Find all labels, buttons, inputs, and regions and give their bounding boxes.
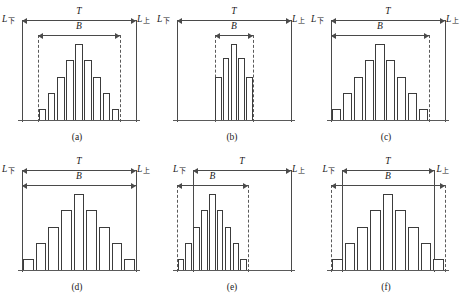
spread-dimension-arrow (215, 35, 254, 36)
spread-right-line (253, 35, 254, 122)
histogram-bar (225, 227, 232, 270)
upper-limit-label-subscript: 上 (297, 167, 305, 175)
histogram-bar (332, 109, 341, 120)
histogram-bar (61, 210, 72, 270)
histogram-bar (433, 259, 444, 270)
tolerance-dimension-arrow (331, 20, 445, 21)
histogram-bar (215, 77, 222, 120)
tolerance-upper-limit-line (445, 20, 446, 122)
histogram-bar (48, 93, 56, 120)
histogram-bar (74, 194, 85, 270)
histogram-bar (217, 210, 224, 270)
lower-limit-label: L下 (173, 165, 186, 175)
upper-limit-label: L上 (137, 165, 150, 175)
histogram-bar (332, 259, 343, 270)
lower-limit-label-subscript: 下 (178, 167, 186, 175)
panel-f: TBL下L上(f) (309, 150, 463, 301)
histogram-baseline (173, 270, 295, 271)
lower-limit-label-subscript: 下 (162, 17, 170, 25)
panel-caption: (b) (155, 132, 309, 142)
spread-right-line (248, 185, 249, 272)
tolerance-dimension-label: T (239, 157, 244, 167)
histogram-bar (357, 227, 368, 270)
histogram-baseline (18, 270, 140, 271)
histogram-bar (193, 227, 200, 270)
histogram-bar (421, 243, 432, 270)
tolerance-dimension-label: T (385, 7, 390, 17)
tolerance-dimension-label: T (231, 7, 236, 17)
panel-caption: (e) (155, 282, 309, 292)
panel-b: TBL下L上(b) (155, 0, 309, 151)
histogram-bar (103, 93, 111, 120)
lower-limit-label: L下 (157, 15, 170, 25)
upper-limit-label-subscript: 上 (442, 167, 450, 175)
spread-dimension-label: B (377, 22, 383, 32)
spread-dimension-arrow (177, 185, 248, 186)
tolerance-lower-limit-line (22, 20, 23, 122)
histogram-bar (112, 243, 123, 270)
histogram-bar (209, 194, 216, 270)
tolerance-upper-limit-line (136, 170, 137, 272)
histogram-bar (246, 77, 253, 120)
histogram-bar (75, 44, 83, 120)
upper-limit-label: L上 (437, 165, 450, 175)
upper-limit-label-subscript: 上 (451, 17, 459, 25)
histogram-bar (343, 93, 352, 120)
histogram-bar (345, 243, 356, 270)
histogram-bar (397, 77, 406, 120)
tolerance-upper-limit-line (136, 20, 137, 122)
spread-dimension-label: B (209, 172, 215, 182)
spread-right-line (429, 35, 430, 122)
histogram-bar (99, 227, 110, 270)
spread-dimension-label: B (385, 172, 391, 182)
lower-limit-label: L下 (322, 165, 335, 175)
lower-limit-label-letter: L (322, 164, 327, 174)
histogram-bar (370, 210, 381, 270)
histogram-bar (240, 259, 247, 270)
histogram-bar (231, 44, 238, 120)
histogram-baseline (327, 120, 449, 121)
spread-right-line (120, 35, 121, 122)
histogram-bar (39, 109, 47, 120)
upper-limit-label-subscript: 上 (142, 17, 150, 25)
histogram-bar (354, 77, 363, 120)
histogram-bar (57, 77, 65, 120)
tolerance-dimension-label: T (385, 157, 390, 167)
histogram-bar (375, 44, 384, 120)
figure-histogram-tolerance-comparison: TBL下L上(a)TBL下L上(b)TBL下L上(c)TBL下L上(d)TBL下… (0, 0, 464, 302)
histogram-baseline (173, 120, 295, 121)
lower-limit-label: L下 (2, 165, 15, 175)
tolerance-upper-limit-line (291, 170, 292, 272)
panel-caption: (d) (0, 282, 154, 292)
spread-dimension-label: B (76, 22, 82, 32)
lower-limit-label-subscript: 下 (316, 17, 324, 25)
panel-c: TBL下L上(c) (309, 0, 463, 151)
spread-dimension-arrow (331, 185, 445, 186)
lower-limit-label: L下 (2, 15, 15, 25)
spread-right-line (445, 185, 446, 272)
histogram-bar (66, 60, 74, 120)
spread-dimension-label: B (231, 22, 237, 32)
panel-caption: (f) (309, 282, 463, 292)
histogram-bar (233, 243, 240, 270)
histogram-bar (395, 210, 406, 270)
histogram-bar (178, 259, 185, 270)
lower-limit-label-subscript: 下 (328, 167, 336, 175)
histogram-bar (383, 194, 394, 270)
histogram-baseline (18, 120, 140, 121)
histogram-bar (84, 60, 92, 120)
upper-limit-label-subscript: 上 (142, 167, 150, 175)
histogram-bar (201, 210, 208, 270)
spread-dimension-arrow (22, 185, 136, 186)
histogram-bar (23, 259, 34, 270)
histogram-bar (112, 109, 120, 120)
upper-limit-label-subscript: 上 (297, 17, 305, 25)
histogram-bar (93, 77, 101, 120)
spread-dimension-arrow (331, 35, 429, 36)
panel-e: TBL下L上(e) (155, 150, 309, 301)
upper-limit-label: L上 (292, 15, 305, 25)
upper-limit-label: L上 (137, 15, 150, 25)
histogram-bar (124, 259, 135, 270)
tolerance-dimension-arrow (193, 170, 291, 171)
histogram-baseline (327, 270, 449, 271)
